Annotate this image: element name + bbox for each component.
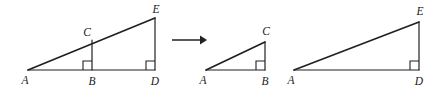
right-angle-marker-at-D [146,61,155,70]
right-angle-marker-at-D-large [410,61,419,70]
vertex-label-C-small: C [262,25,270,37]
segment-hypotenuse-AE-large [294,22,419,70]
vertex-label-A-combined: A [20,74,29,86]
geometry-figure: A B D C E A B C A D E [0,0,438,95]
right-angle-marker-at-B-small [256,61,265,70]
panel-large-triangle-ade: A D E [286,5,423,87]
vertex-label-D-combined: D [150,75,160,87]
vertex-label-B-combined: B [88,75,95,87]
geometry-canvas: A B D C E A B C A D E [0,0,438,95]
panel-combined-triangle: A B D C E [20,3,159,87]
arrow-head-icon [200,36,207,45]
panel-small-triangle-abc: A B C [198,25,270,87]
transformation-arrow [172,36,207,45]
vertex-label-A-small: A [198,74,207,86]
vertex-label-A-large: A [286,74,295,86]
vertex-label-C-combined: C [83,26,91,38]
vertex-label-D-large: D [414,75,424,87]
vertex-label-E-combined: E [151,3,159,15]
right-angle-marker-at-B [83,61,92,70]
vertex-label-B-small: B [261,75,268,87]
vertex-label-E-large: E [415,5,423,17]
